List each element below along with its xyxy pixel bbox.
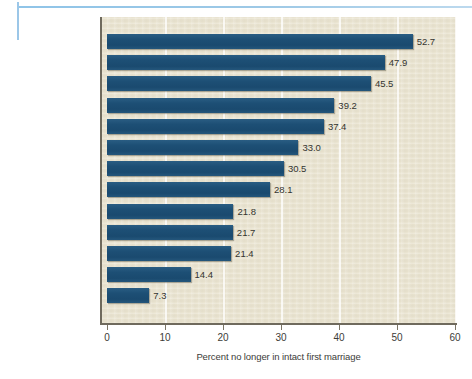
bar-value-label: 21.7 (237, 224, 256, 241)
bar[interactable] (107, 267, 191, 282)
bar[interactable] (107, 204, 233, 219)
x-axis-tick-label: 20 (203, 332, 243, 343)
bar-row[interactable]: Non-Hispanic White37.4 (0, 118, 472, 135)
bar-value-label: 14.4 (195, 266, 214, 283)
bar[interactable] (107, 140, 298, 155)
bar-value-label: 7.3 (153, 287, 166, 304)
bar-value-label: 21.8 (237, 203, 256, 220)
x-axis-tick-mark (223, 325, 224, 330)
x-axis-tick-label: 60 (435, 332, 472, 343)
bar-row[interactable]: Cuban33.0 (0, 139, 472, 156)
x-axis-tick-mark (397, 325, 398, 330)
bar-row[interactable]: Puerto Rican45.5 (0, 75, 472, 92)
x-axis-title: Percent no longer in intact first marria… (100, 351, 457, 362)
bar-value-label: 28.1 (274, 181, 293, 198)
bar-row[interactable]: Hawaiian39.2 (0, 97, 472, 114)
bar-value-label: 45.5 (375, 75, 394, 92)
bar-value-label: 37.4 (328, 118, 347, 135)
bar-row[interactable]: Chinese14.4 (0, 266, 472, 283)
bar-value-label: 39.2 (338, 97, 357, 114)
bar-row[interactable]: Filipino21.4 (0, 245, 472, 262)
bar[interactable] (107, 182, 270, 197)
x-axis-tick-label: 50 (377, 332, 417, 343)
x-axis-tick-mark (455, 325, 456, 330)
bar-value-label: 47.9 (389, 54, 408, 71)
x-axis-tick-label: 0 (87, 332, 127, 343)
x-axis-tick-mark (339, 325, 340, 330)
bar[interactable] (107, 288, 149, 303)
x-axis-tick-mark (165, 325, 166, 330)
x-axis-tick-mark (281, 325, 282, 330)
bar-value-label: 33.0 (302, 139, 321, 156)
bar[interactable] (107, 161, 284, 176)
x-axis-tick-label: 10 (145, 332, 185, 343)
x-axis-tick-label: 30 (261, 332, 301, 343)
bar-value-label: 52.7 (417, 33, 436, 50)
bar-row[interactable]: Native American47.9 (0, 54, 472, 71)
bar-row[interactable]: African American52.7 (0, 33, 472, 50)
bar[interactable] (107, 246, 231, 261)
bar[interactable] (107, 225, 233, 240)
bar-value-label: 30.5 (288, 160, 307, 177)
bar[interactable] (107, 76, 371, 91)
x-axis-tick-label: 40 (319, 332, 359, 343)
bar[interactable] (107, 98, 334, 113)
bar-value-label: 21.4 (235, 245, 254, 262)
bar-row[interactable]: Vietnamese28.1 (0, 181, 472, 198)
bar[interactable] (107, 34, 413, 49)
bar-chart-figure: 0102030405060 African American52.7Native… (0, 0, 472, 379)
bar-row[interactable]: Japanese21.8 (0, 203, 472, 220)
x-axis-line (100, 323, 457, 325)
bar[interactable] (107, 119, 324, 134)
bar-row[interactable]: Mexican30.5 (0, 160, 472, 177)
bar-row[interactable]: Korean21.7 (0, 224, 472, 241)
bar-row[interactable]: Asian Indian7.3 (0, 287, 472, 304)
bar[interactable] (107, 55, 385, 70)
x-axis-tick-mark (107, 325, 108, 330)
